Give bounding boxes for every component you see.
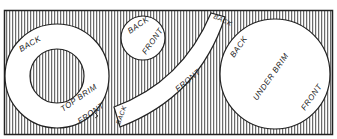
top-brim-piece: BACK TOP BRIM FRONT: [5, 24, 109, 128]
under-brim-piece: BACK UNDER BRIM FRONT: [220, 19, 330, 129]
pattern-diagram: BACK TOP BRIM FRONT BACK FRONT BACK FRON…: [0, 0, 337, 139]
